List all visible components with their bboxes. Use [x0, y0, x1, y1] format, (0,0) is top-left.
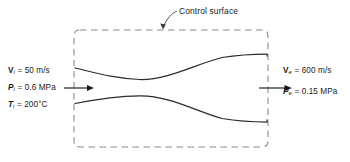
inlet-temperature-value: = 200°C: [17, 100, 48, 109]
inlet-pressure-label: Pi = 0.6 MPa: [8, 83, 56, 92]
leader-arrow-icon: [160, 24, 166, 30]
inlet-velocity-value: = 50 m/s: [17, 66, 49, 75]
control-surface-boundary: [74, 30, 268, 147]
inlet-velocity-label: Vi = 50 m/s: [8, 66, 50, 75]
exit-velocity-subscript: e: [289, 69, 292, 75]
control-surface-label: Control surface: [179, 6, 238, 16]
nozzle-upper-wall: [75, 54, 267, 80]
inlet-temperature-label: Ti = 200°C: [8, 100, 48, 109]
exit-velocity-label: Ve = 600 m/s: [283, 66, 331, 75]
exit-pressure-value: = 0.15 MPa: [294, 87, 337, 96]
figure-canvas: [0, 0, 350, 162]
nozzle-lower-wall: [75, 96, 267, 122]
inlet-velocity-subscript: i: [14, 69, 15, 75]
inlet-pressure-value: = 0.6 MPa: [17, 83, 55, 92]
nozzle-control-volume-figure: Control surface Vi = 50 m/s Pi = 0.6 MPa…: [0, 0, 350, 162]
arrow-right-icon: [87, 85, 94, 91]
exit-pressure-subscript: e: [289, 90, 292, 96]
exit-velocity-value: = 600 m/s: [294, 66, 331, 75]
exit-pressure-label: Pe = 0.15 MPa: [283, 87, 337, 96]
inlet-pressure-subscript: i: [14, 86, 15, 92]
inlet-temperature-subscript: i: [13, 103, 14, 109]
